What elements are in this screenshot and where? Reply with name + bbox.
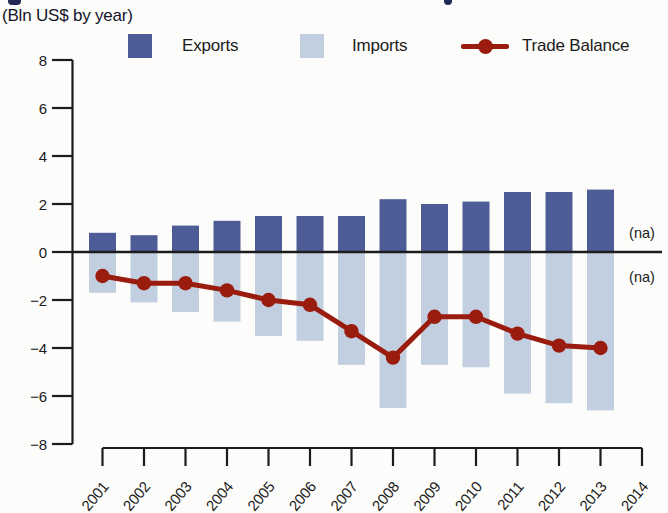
- na-label-imports: (na): [629, 269, 655, 285]
- chart-canvas: 86420−2−4−6−8200120022003200420052006200…: [0, 0, 668, 513]
- bar-imports-2009: [421, 252, 448, 365]
- imports-square-icon: [300, 34, 324, 58]
- bars-exports: [89, 190, 614, 252]
- x-tick-label-2004: 2004: [202, 478, 236, 513]
- trade-balance-point-2002: [137, 276, 151, 290]
- y-axis: [52, 60, 73, 444]
- y-tick-label: 4: [39, 148, 47, 165]
- x-tick-label-2005: 2005: [244, 478, 278, 513]
- y-tick-label: 0: [39, 244, 47, 261]
- y-axis-labels: 86420−2−4−6−8: [30, 52, 47, 453]
- x-tick-label-2008: 2008: [368, 478, 402, 513]
- trade-balance-point-2007: [344, 324, 358, 338]
- bar-imports-2012: [546, 252, 573, 403]
- bar-imports-2006: [297, 252, 324, 341]
- trade-chart-figure: (Bln US$ by year) 86420−2−4−6−8200120022…: [0, 0, 668, 513]
- trade-balance-point-2013: [593, 341, 607, 355]
- x-axis-labels: 2001200220032004200520062007200820092010…: [78, 478, 651, 513]
- bar-exports-2001: [89, 233, 116, 252]
- bar-exports-2002: [131, 235, 158, 252]
- x-tick-label-2003: 2003: [161, 478, 195, 513]
- x-tick-label-2007: 2007: [327, 478, 361, 513]
- x-axis: [103, 448, 643, 466]
- y-tick-label: −8: [30, 436, 47, 453]
- legend-item-trade-balance: Trade Balance: [461, 33, 629, 59]
- bar-exports-2006: [297, 216, 324, 252]
- x-tick-label-2013: 2013: [576, 478, 610, 513]
- y-tick-label: 2: [39, 196, 47, 213]
- x-tick-label-2009: 2009: [410, 478, 444, 513]
- bar-exports-2004: [214, 221, 241, 252]
- bar-exports-2012: [546, 192, 573, 252]
- y-tick-label: 6: [39, 100, 47, 117]
- legend-item-imports: Imports: [300, 33, 407, 59]
- x-tick-label-2006: 2006: [285, 478, 319, 513]
- trade-balance-line-dot-icon: [461, 34, 509, 58]
- bar-exports-2007: [338, 216, 365, 252]
- bar-exports-2010: [463, 202, 490, 252]
- y-tick-label: −2: [30, 292, 47, 309]
- bar-imports-2013: [587, 252, 614, 410]
- trade-balance-point-2006: [303, 298, 317, 312]
- trade-balance-point-2005: [261, 293, 275, 307]
- x-tick-label-2001: 2001: [78, 478, 112, 513]
- bar-exports-2003: [172, 226, 199, 252]
- legend-label-trade-balance: Trade Balance: [522, 36, 629, 56]
- na-label-exports: (na): [629, 225, 655, 241]
- y-tick-label: −6: [30, 388, 47, 405]
- bar-imports-2011: [504, 252, 531, 394]
- x-tick-label-2012: 2012: [534, 478, 568, 513]
- legend-item-exports: Exports: [128, 33, 238, 59]
- bar-exports-2009: [421, 204, 448, 252]
- trade-balance-point-2004: [220, 283, 234, 297]
- trade-balance-point-2001: [95, 269, 109, 283]
- trade-balance-point-2010: [469, 310, 483, 324]
- bar-imports-2007: [338, 252, 365, 365]
- trade-balance-point-2012: [552, 338, 566, 352]
- legend-label-imports: Imports: [352, 36, 407, 56]
- exports-square-icon: [128, 34, 152, 58]
- bar-imports-2008: [380, 252, 407, 408]
- x-tick-label-2002: 2002: [119, 478, 153, 513]
- bar-exports-2013: [587, 190, 614, 252]
- trade-balance-dot-icon: [478, 39, 493, 54]
- trade-balance-point-2009: [427, 310, 441, 324]
- bar-exports-2008: [380, 199, 407, 252]
- trade-balance-point-2011: [510, 326, 524, 340]
- y-tick-label: −4: [30, 340, 47, 357]
- bar-exports-2005: [255, 216, 282, 252]
- x-tick-label-2010: 2010: [451, 478, 485, 513]
- x-tick-label-2011: 2011: [494, 478, 527, 513]
- x-tick-label-2014: 2014: [617, 478, 651, 513]
- bar-exports-2011: [504, 192, 531, 252]
- trade-balance-point-2003: [178, 276, 192, 290]
- legend-label-exports: Exports: [182, 36, 238, 56]
- trade-balance-point-2008: [386, 350, 400, 364]
- legend: Exports Imports Trade Balance: [0, 33, 668, 59]
